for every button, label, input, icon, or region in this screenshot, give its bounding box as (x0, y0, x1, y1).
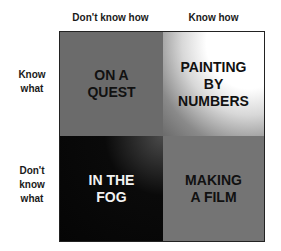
quadrant-in-the-fog: IN THE FOG (60, 136, 163, 241)
row-label-line: Don't (8, 164, 56, 178)
quadrant-text: PAINTING (178, 59, 249, 76)
quadrant-text: MAKING (185, 172, 242, 189)
quadrant-text: FOG (89, 189, 135, 206)
row-label-dont-know-what: Don't know what (8, 164, 56, 206)
row-label-line: what (8, 192, 56, 206)
quadrant-text: NUMBERS (178, 93, 249, 110)
quadrant-text: ON A (87, 67, 135, 84)
quadrant-text: IN THE (89, 172, 135, 189)
row-label-line: Know (8, 68, 56, 82)
quadrant-matrix: ON A QUEST PAINTING BY NUMBERS IN THE FO… (59, 31, 265, 242)
column-label-dont-know-how: Don't know how (59, 12, 162, 23)
row-label-know-what: Know what (8, 68, 56, 96)
quadrant-text: QUEST (87, 84, 135, 101)
quadrant-painting-by-numbers: PAINTING BY NUMBERS (163, 32, 264, 136)
column-label-know-how: Know how (162, 12, 265, 23)
quadrant-making-a-film: MAKING A FILM (163, 136, 264, 241)
row-label-line: what (8, 82, 56, 96)
quadrant-text: BY (178, 76, 249, 93)
quadrant-on-a-quest: ON A QUEST (60, 32, 163, 136)
row-label-line: know (8, 178, 56, 192)
quadrant-text: A FILM (185, 189, 242, 206)
